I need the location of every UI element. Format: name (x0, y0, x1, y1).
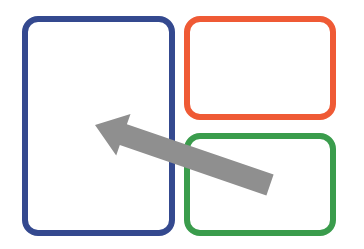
move-arrow-icon (0, 0, 364, 249)
arrow-shape (95, 114, 274, 195)
